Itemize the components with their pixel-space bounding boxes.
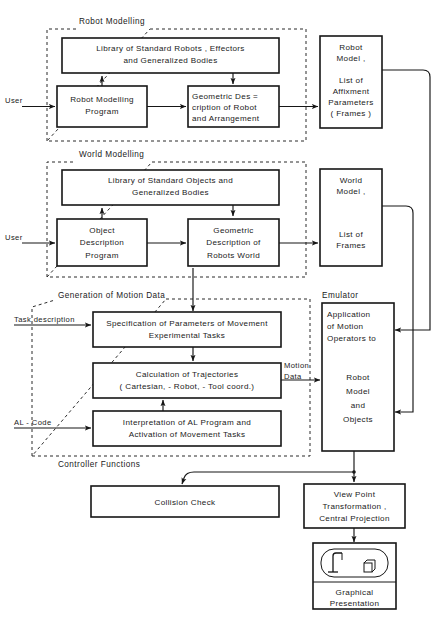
box-robot-model-line-0: Robot: [339, 43, 363, 52]
edge-motion-data-to-emulator: Motion Data: [281, 361, 320, 381]
group-label-world-modelling: World Modelling: [79, 150, 144, 159]
group-emulator: Emulator Application of Motion Operators…: [322, 291, 394, 451]
box-world-model-line-3: List of: [339, 230, 363, 239]
box-robot-model-line-3: List of: [339, 76, 363, 85]
box-library-standard-objects-line-0: Library of Standard Objects and: [108, 176, 233, 185]
box-library-standard-objects-line-1: Generalized Bodies: [132, 188, 209, 197]
box-collision-check: Collision Check: [91, 486, 279, 517]
box-specification-parameters-line-1: Experimental Tasks: [149, 331, 225, 340]
box-world-model-line-0: World: [340, 176, 363, 185]
box-emulator-line-2: Operators to: [327, 334, 376, 343]
edge-task-description: Task description: [14, 315, 91, 325]
box-geometric-description-robot-line-1: cription of Robot: [192, 103, 257, 112]
edge-label-user-world: User: [5, 233, 23, 242]
box-emulator-line-1: of Motion: [327, 322, 363, 331]
box-view-point-transformation: View Point Transformation , Central Proj…: [304, 484, 405, 528]
group-label-generation-of-motion-data: Generation of Motion Data: [58, 291, 165, 300]
box-geometric-description-world-line-2: Robots World: [207, 251, 260, 260]
box-graphical-presentation-line-0: Graphical: [336, 588, 374, 597]
box-robot-model-line-6: ( Frames ): [331, 109, 372, 118]
edge-label-al-code: AL - Code: [14, 418, 52, 427]
box-robot-model-line-1: Model ,: [337, 54, 366, 63]
box-world-model: World Model , List of Frames: [320, 169, 382, 266]
box-robot-model-line-5: Parameters: [328, 98, 373, 107]
box-geometric-description-robot: Geometric Des = cription of Robot and Ar…: [188, 86, 279, 127]
box-geometric-description-world-line-0: Geometric: [213, 226, 253, 235]
edge-robot-model-to-emulator: [382, 70, 430, 330]
box-calculation-trajectories-line-1: ( Cartesian, - Robot, - Tool coord.): [120, 382, 255, 391]
diagram-canvas: Robot Modelling Library of Standard Robo…: [0, 0, 442, 627]
box-specification-parameters-line-0: Specification of Parameters of Movement: [106, 319, 268, 328]
box-world-model-line-4: Frames: [336, 241, 366, 250]
box-graphical-presentation-line-1: Presentation: [330, 599, 380, 608]
box-interpretation-al-program-line-0: Interpretation of AL Program and: [123, 418, 251, 427]
box-robot-model: Robot Model , List of Affixment Paramete…: [320, 36, 382, 128]
box-calculation-trajectories: Calculation of Trajectories ( Cartesian,…: [93, 363, 281, 398]
box-object-description-program-line-1: Description: [80, 238, 124, 247]
box-library-standard-objects: Library of Standard Objects and Generali…: [62, 170, 279, 205]
box-robot-modelling-program-line-0: Robot Modelling: [70, 95, 134, 104]
box-interpretation-al-program-line-1: Activation of Movement Tasks: [129, 430, 246, 439]
box-robot-model-line-4: Affixment: [333, 87, 370, 96]
edge-label-motion-data-line-0: Motion: [284, 361, 309, 370]
box-library-standard-robots-line-1: and Generalized Bodies: [123, 56, 217, 65]
box-object-description-program: Object Description Program: [57, 219, 147, 266]
box-collision-check-line-0: Collision Check: [154, 498, 216, 507]
box-emulator-line-5: Robot: [346, 373, 370, 382]
box-object-description-program-line-0: Object: [89, 226, 115, 235]
box-geometric-description-robot-line-2: and Arrangement: [192, 114, 260, 123]
group-controller-functions: Controller Functions: [58, 460, 140, 469]
box-library-standard-robots: Library of Standard Robots , Effectors a…: [62, 38, 279, 73]
box-specification-parameters: Specification of Parameters of Movement …: [93, 312, 281, 347]
edge-al-code: AL - Code: [14, 418, 91, 428]
box-geometric-description-world-line-1: Description of: [206, 238, 261, 247]
edge-label-task-description: Task description: [14, 315, 75, 324]
box-view-point-line-0: View Point: [334, 490, 376, 499]
box-geometric-description-robot-line-0: Geometric Des =: [192, 92, 258, 101]
box-calculation-trajectories-line-0: Calculation of Trajectories: [136, 370, 239, 379]
box-emulator-line-7: and: [351, 401, 366, 410]
box-view-point-line-2: Central Projection: [319, 514, 390, 523]
group-label-controller-functions: Controller Functions: [58, 460, 140, 469]
block-diagram: Robot Modelling Library of Standard Robo…: [0, 0, 442, 627]
edge-label-motion-data-line-1: Data: [284, 372, 302, 381]
box-object-description-program-line-2: Program: [85, 251, 119, 260]
box-view-point-line-1: Transformation ,: [322, 502, 386, 511]
box-emulator-line-6: Model: [346, 387, 370, 396]
box-robot-modelling-program-line-1: Program: [85, 107, 119, 116]
edge-label-user-robot: User: [5, 96, 23, 105]
box-emulator-line-8: Objects: [343, 415, 373, 424]
box-geometric-description-world: Geometric Description of Robots World: [188, 219, 279, 266]
box-world-model-line-1: Model ,: [337, 187, 366, 196]
box-graphical-presentation: Graphical Presentation: [313, 543, 396, 609]
box-emulator-line-0: Application: [327, 310, 370, 319]
group-label-emulator: Emulator: [322, 291, 358, 300]
box-interpretation-al-program: Interpretation of AL Program and Activat…: [93, 411, 281, 446]
box-library-standard-robots-line-0: Library of Standard Robots , Effectors: [96, 44, 245, 53]
group-label-robot-modelling: Robot Modelling: [79, 17, 145, 26]
box-robot-modelling-program: Robot Modelling Program: [57, 86, 147, 127]
